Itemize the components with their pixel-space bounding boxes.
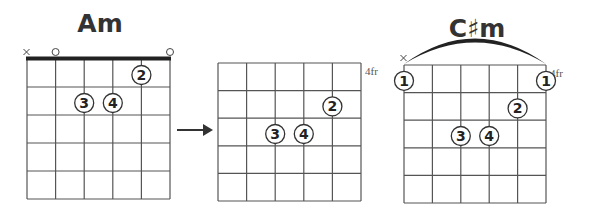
finger-number: 2: [137, 67, 147, 83]
finger-marker-4: 4: [480, 127, 499, 146]
finger-number: 3: [456, 128, 466, 144]
chord-title-am: Am: [77, 9, 122, 38]
finger-number: 3: [270, 126, 280, 142]
finger-marker-1: 1: [395, 71, 414, 90]
chord-diagrams-canvas: Am C♯m 2344fr2344fr11234: [0, 0, 591, 214]
finger-marker-2: 2: [508, 99, 527, 118]
finger-marker-3: 3: [266, 125, 285, 144]
fretboard-grid: [404, 65, 546, 203]
finger-number: 2: [513, 100, 523, 116]
fret-position-label: 4fr: [365, 65, 378, 77]
muted-string-icon: [401, 55, 407, 61]
finger-number: 1: [541, 73, 551, 89]
finger-number: 1: [399, 73, 409, 89]
nut: [26, 57, 171, 61]
muted-string-icon: [24, 49, 30, 55]
finger-number: 3: [79, 95, 89, 111]
diagram-layer: 2344fr2344fr11234: [24, 39, 564, 204]
finger-number: 4: [299, 126, 309, 142]
fretboard-grid: [218, 63, 361, 201]
chord-diagram-am: 234: [24, 49, 174, 200]
finger-marker-2: 2: [323, 97, 342, 116]
finger-marker-3: 3: [451, 127, 470, 146]
chord-diagram-csharp-m: 4fr11234: [395, 39, 564, 204]
finger-marker-1: 1: [537, 71, 556, 90]
finger-marker-4: 4: [103, 94, 122, 113]
barre-arc: [404, 39, 546, 65]
finger-marker-4: 4: [294, 125, 313, 144]
finger-marker-2: 2: [132, 66, 151, 85]
finger-marker-3: 3: [75, 94, 94, 113]
open-string-icon: [52, 49, 59, 56]
arrow-right-icon: [177, 124, 213, 136]
chord-diagram-am-shape-moved: 4fr234: [218, 63, 378, 201]
finger-number: 2: [328, 98, 338, 114]
finger-number: 4: [108, 95, 118, 111]
open-string-icon: [167, 49, 174, 56]
finger-number: 4: [484, 128, 494, 144]
